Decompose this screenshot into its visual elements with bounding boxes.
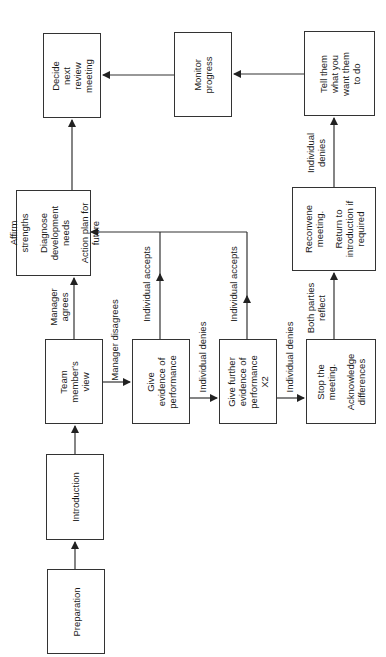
node-decide-next-review: Decide next review meeting	[43, 33, 101, 118]
node-team-member-view: Team member's view	[45, 339, 103, 424]
node-text: performance	[167, 355, 178, 408]
node-reconvene: Reconvene meeting. Return to introductio…	[292, 187, 376, 271]
node-text: progress	[203, 56, 214, 93]
node-text: review	[72, 59, 83, 93]
edge-label-both-parties-reflect: Both parties reflect	[305, 283, 327, 334]
node-text: Reconvene	[303, 201, 314, 258]
node-text: differences	[356, 353, 367, 410]
edge-label-manager-disagrees: Manager disagrees	[109, 299, 120, 380]
node-text: Introduction	[70, 472, 81, 522]
node-text: Action plan for	[78, 203, 89, 264]
node-text: introduction if	[344, 201, 355, 258]
node-text: Return to	[333, 201, 344, 258]
node-text: Affirm	[7, 203, 18, 264]
node-text: want them	[340, 52, 351, 96]
edge-label-individual-denies-2: Individual denies	[284, 322, 295, 393]
node-text: strengths	[18, 203, 29, 264]
node-text: Give further	[226, 355, 237, 408]
node-stop-meeting: Stop the meeting. Acknowledge difference…	[306, 339, 376, 424]
node-text: future	[89, 203, 100, 264]
node-text: Tell them	[318, 52, 329, 96]
edge-label-individual-accepts-2: Individual accepts	[228, 246, 239, 322]
node-text: meeting.	[326, 353, 337, 410]
node-text: Decide	[50, 59, 61, 93]
node-text: Team	[58, 361, 69, 402]
edge-label-individual-denies-3: Individual denies	[305, 133, 327, 173]
node-tell-them: Tell them what you want them to do	[304, 31, 375, 116]
node-text: Give	[145, 355, 156, 408]
node-text: evidence of	[237, 355, 248, 408]
node-text: Preparation	[71, 587, 82, 636]
edge-label-individual-accepts-1: Individual accepts	[141, 246, 152, 322]
node-give-evidence: Give evidence of performance	[132, 339, 190, 424]
node-text: required	[355, 201, 366, 258]
node-give-further-evidence: Give further evidence of performance X2	[219, 339, 277, 424]
node-text: to do	[351, 52, 362, 96]
node-text: what you	[329, 52, 340, 96]
node-preparation: Preparation	[47, 569, 105, 654]
node-affirm-strengths: Affirm strengths Diagnose development ne…	[16, 190, 91, 276]
node-text: needs	[59, 203, 70, 264]
node-text: view	[80, 361, 91, 402]
edge-label-manager-agrees: Manager agrees	[48, 288, 70, 326]
node-text: next	[61, 59, 72, 93]
node-introduction: Introduction	[46, 454, 104, 540]
node-text: member's	[69, 361, 80, 402]
node-text: performance	[248, 355, 259, 408]
node-text: meeting	[83, 59, 94, 93]
node-text: meeting.	[314, 201, 325, 258]
node-text: Monitor	[192, 56, 203, 93]
node-text: development	[48, 203, 59, 264]
node-text: Acknowledge	[345, 353, 356, 410]
node-monitor-progress: Monitor progress	[174, 32, 232, 117]
node-text: Diagnose	[37, 203, 48, 264]
node-text: Stop the	[315, 353, 326, 410]
edge-label-individual-denies-1: Individual denies	[197, 322, 208, 393]
node-text: X2	[259, 355, 270, 408]
node-text: evidence of	[156, 355, 167, 408]
